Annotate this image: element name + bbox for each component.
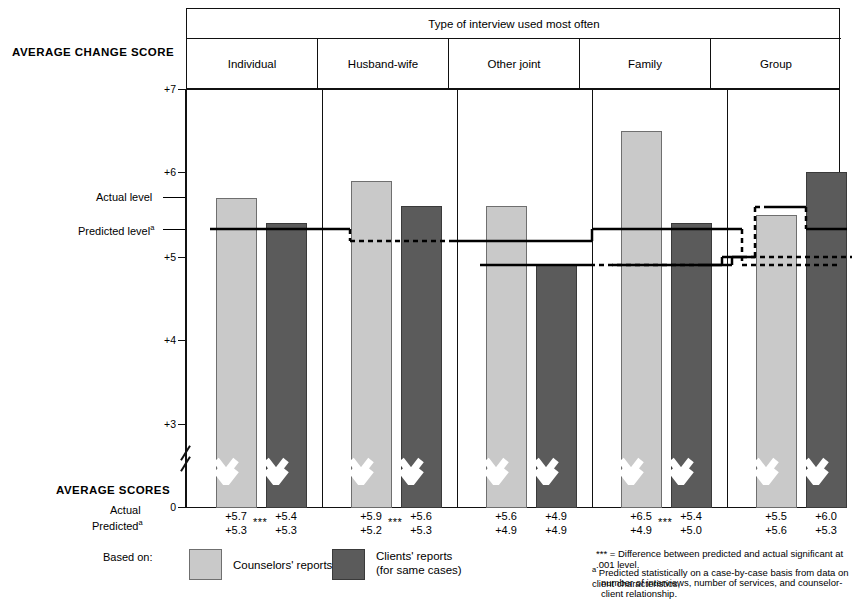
value-actual-group-counselors: +5.5 <box>753 510 799 522</box>
value-predicted-group-counselors: +5.6 <box>753 524 799 536</box>
y-tick-6 <box>178 172 186 173</box>
value-actual-other-joint-clients: +4.9 <box>533 510 579 522</box>
value-predicted-individual-clients: +5.3 <box>263 524 309 536</box>
predicted-level-annotation: Predicted levela <box>78 223 154 237</box>
y-tick-label-6: +6 <box>158 166 176 178</box>
y-tick-label-7: +7 <box>158 83 176 95</box>
based-on-label: Based on: <box>103 551 153 563</box>
predicted-level-step-lines-family-group <box>592 89 859 508</box>
y-tick-label-4: +4 <box>158 334 176 346</box>
y-tick-label-0: 0 <box>158 501 176 513</box>
actual-row-label: Actual <box>110 504 141 516</box>
average-scores-label: AVERAGE SCORES <box>56 484 170 496</box>
category-header-family: Family <box>580 39 711 89</box>
actual-level-annotation: Actual level <box>96 191 152 203</box>
value-actual-other-joint-counselors: +5.6 <box>483 510 529 522</box>
y-tick-0 <box>178 507 186 508</box>
value-predicted-other-joint-counselors: +4.9 <box>483 524 529 536</box>
legend-swatch-clients <box>332 549 365 580</box>
category-header-individual: Individual <box>187 39 318 89</box>
average-change-score-label: AVERAGE CHANGE SCORE <box>12 46 174 58</box>
y-tick-5 <box>178 257 186 258</box>
y-tick-label-3: +3 <box>158 418 176 430</box>
category-header-husband-wife: Husband-wife <box>318 39 449 89</box>
category-header-other-joint: Other joint <box>449 39 580 89</box>
value-predicted-group-clients: +5.3 <box>803 524 849 536</box>
value-predicted-family-clients: +5.0 <box>668 524 714 536</box>
y-tick-3 <box>178 424 186 425</box>
y-tick-4 <box>178 340 186 341</box>
chart-header-title: Type of interview used most often <box>187 9 841 39</box>
footnote-a-line2: number of interviews, number of services… <box>601 577 859 599</box>
predicted-row-label: Predicteda <box>92 518 143 532</box>
chart-header-table: Type of interview used most often Indivi… <box>186 8 840 89</box>
legend-label-counselors: Counselors' reports <box>233 559 332 571</box>
value-actual-husband-wife-clients: +5.6 <box>398 510 444 522</box>
y-tick-7 <box>178 89 186 90</box>
predicted-level-text: Predicted level <box>78 225 150 237</box>
y-tick-label-5: +5 <box>158 251 176 263</box>
footnote-marker-a: a <box>150 223 154 232</box>
value-predicted-other-joint-clients: +4.9 <box>533 524 579 536</box>
legend-label-clients-line2: (for same cases) <box>376 564 462 576</box>
actual-level-leader-line <box>163 197 187 198</box>
category-header-row: Individual Husband-wife Other joint Fami… <box>187 39 841 89</box>
value-actual-group-clients: +6.0 <box>803 510 849 522</box>
value-actual-family-clients: +5.4 <box>668 510 714 522</box>
footnote-marker-a: a <box>138 518 142 527</box>
category-header-group: Group <box>711 39 841 89</box>
value-actual-individual-clients: +5.4 <box>263 510 309 522</box>
legend-swatch-counselors <box>189 549 222 580</box>
predicted-row-text: Predicted <box>92 520 138 532</box>
predicted-level-leader-line <box>163 229 187 230</box>
value-predicted-husband-wife-clients: +5.3 <box>398 524 444 536</box>
legend-label-clients-line1: Clients' reports <box>376 550 452 562</box>
footnote-marker-a: a <box>592 565 596 574</box>
